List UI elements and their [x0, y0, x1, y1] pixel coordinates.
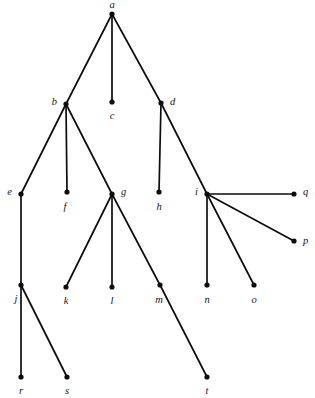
- graph-edge-b-g: [66, 104, 112, 194]
- graph-edge-d-h: [159, 103, 161, 192]
- graph-edge-g-k: [66, 194, 112, 287]
- node-label-k: k: [64, 295, 69, 306]
- graph-node-r[interactable]: [18, 374, 23, 379]
- node-label-b: b: [52, 96, 57, 107]
- node-label-t: t: [206, 385, 210, 396]
- graph-node-q[interactable]: [291, 191, 296, 196]
- node-label-a: a: [109, 0, 114, 10]
- edge-layer: [21, 14, 294, 377]
- graph-edge-a-b: [66, 14, 112, 104]
- node-label-c: c: [110, 110, 115, 121]
- graph-node-i[interactable]: [204, 191, 209, 196]
- tree-graph-canvas: abcdefghijklmnopqrst: [0, 0, 315, 398]
- graph-node-k[interactable]: [63, 284, 68, 289]
- node-label-i: i: [195, 186, 198, 197]
- node-label-f: f: [64, 201, 69, 212]
- graph-node-n[interactable]: [204, 282, 209, 287]
- graph-node-g[interactable]: [109, 191, 114, 196]
- node-label-p: p: [302, 235, 308, 246]
- node-label-s: s: [65, 385, 69, 396]
- graph-edge-a-d: [112, 14, 161, 103]
- graph-node-a[interactable]: [109, 11, 114, 16]
- node-label-n: n: [204, 294, 209, 305]
- graph-node-s[interactable]: [64, 374, 69, 379]
- node-label-r: r: [19, 385, 24, 396]
- graph-node-t[interactable]: [204, 374, 209, 379]
- graph-node-c[interactable]: [109, 99, 114, 104]
- graph-node-j[interactable]: [18, 282, 23, 287]
- graph-node-l[interactable]: [109, 284, 114, 289]
- node-label-l: l: [111, 295, 114, 306]
- graph-edge-j-s: [21, 285, 67, 377]
- node-label-m: m: [155, 294, 163, 305]
- node-label-h: h: [156, 201, 161, 212]
- graph-node-f[interactable]: [64, 189, 69, 194]
- node-label-o: o: [251, 294, 256, 305]
- node-layer: [18, 11, 296, 379]
- graph-edge-d-i: [161, 103, 207, 194]
- node-label-j: j: [13, 293, 18, 304]
- graph-node-p[interactable]: [291, 238, 296, 243]
- node-label-q: q: [303, 186, 308, 197]
- graph-edge-g-m: [112, 194, 160, 285]
- node-label-e: e: [7, 186, 12, 197]
- node-label-d: d: [170, 96, 176, 107]
- label-layer: abcdefghijklmnopqrst: [7, 0, 308, 396]
- graph-node-m[interactable]: [157, 282, 162, 287]
- graph-edge-b-f: [66, 104, 67, 192]
- graph-edge-b-e: [21, 104, 66, 194]
- graph-node-e[interactable]: [18, 191, 23, 196]
- graph-edge-m-t: [160, 285, 207, 377]
- graph-node-d[interactable]: [158, 100, 163, 105]
- tree-diagram: abcdefghijklmnopqrst: [0, 0, 315, 398]
- graph-node-o[interactable]: [251, 282, 256, 287]
- graph-node-h[interactable]: [156, 189, 161, 194]
- graph-node-b[interactable]: [63, 101, 68, 106]
- node-label-g: g: [121, 186, 126, 197]
